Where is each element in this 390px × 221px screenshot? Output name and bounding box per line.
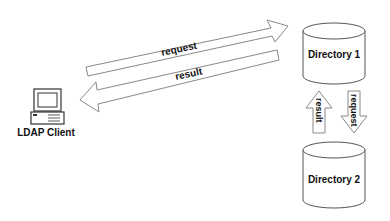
ldap-client-label: LDAP Client — [17, 127, 75, 138]
result-vertical-label: result — [314, 98, 324, 123]
diagram-canvas: request result Directory 1 Directory 2 r… — [0, 0, 390, 221]
directory-2-label: Directory 2 — [308, 174, 361, 185]
directory-1-label: Directory 1 — [308, 49, 361, 60]
computer-icon — [31, 89, 64, 124]
request-vertical-label: request — [349, 94, 359, 127]
